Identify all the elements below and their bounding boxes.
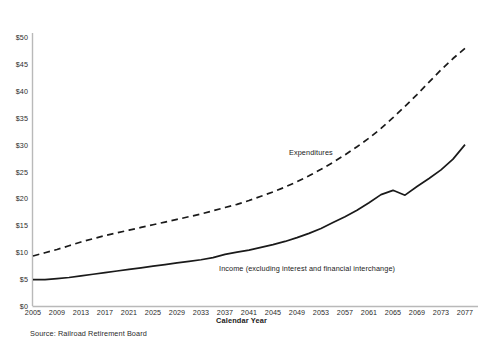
- y-axis-tick-label: $25: [2, 168, 28, 177]
- y-axis-tick-label: $45: [2, 60, 28, 69]
- y-axis-tick-label: $20: [2, 194, 28, 203]
- plot-area: [0, 0, 483, 343]
- y-axis-tick-label: $30: [2, 141, 28, 150]
- y-axis-tick-label: $35: [2, 114, 28, 123]
- y-axis-tick-label: $5: [2, 275, 28, 284]
- x-axis-title: Calendar Year: [0, 316, 483, 325]
- y-axis-tick-label: $50: [2, 33, 28, 42]
- y-axis-tick-label: $40: [2, 87, 28, 96]
- y-axis-tick-label: $10: [2, 248, 28, 257]
- source-note: Source: Railroad Retirement Board: [30, 329, 147, 338]
- chart-figure: $50$45$40$35$30$25$20$15$10$5$0 20052009…: [0, 0, 483, 343]
- series-label-income: Income (excluding interest and financial…: [219, 264, 395, 273]
- series-line-income: [33, 145, 465, 280]
- series-label-expenditures: Expenditures: [289, 148, 333, 157]
- y-axis-tick-label: $15: [2, 221, 28, 230]
- series-line-expenditures: [33, 48, 465, 256]
